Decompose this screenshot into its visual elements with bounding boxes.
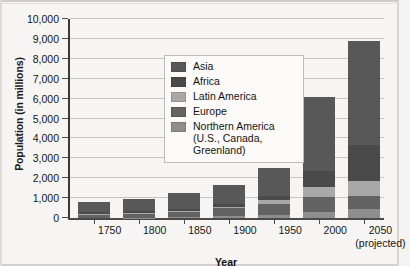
bar-1800 [123, 199, 155, 218]
y-axis-tick-label: 1,000 [33, 192, 59, 204]
figure-border-top [0, 0, 399, 2]
y-axis-tick [62, 217, 68, 218]
figure-border-top-secondary [0, 3, 399, 4]
gridline [70, 38, 384, 39]
legend-label-line: Africa [193, 75, 220, 87]
plot-area: 01,0002,0003,0004,0005,0006,0007,0008,00… [68, 19, 384, 220]
x-axis-tick-label-year: 1900 [233, 224, 256, 236]
bar-segment-africa [303, 171, 335, 187]
y-axis-tick-label: 10,000 [27, 13, 59, 25]
x-axis-tick-label: 2050(projected) [348, 224, 410, 249]
x-axis-line [68, 218, 384, 220]
bar-segment-asia [168, 193, 200, 209]
bar-segment-asia [303, 97, 335, 171]
bar-segment-asia [348, 41, 380, 145]
legend-swatch [171, 77, 186, 87]
y-axis-tick [62, 78, 68, 79]
legend-label-line: Europe [193, 105, 227, 117]
bar-segment-asia [123, 199, 155, 212]
legend-label: Asia [193, 61, 213, 73]
bar-segment-europe [348, 196, 380, 209]
gridline [70, 18, 384, 19]
bar-segment-europe [258, 204, 290, 215]
bar-segment-northern-america [213, 216, 245, 218]
y-axis-tick [62, 38, 68, 39]
bar-segment-asia [258, 168, 290, 196]
x-axis-tick-label-year: 1850 [188, 224, 211, 236]
gridline [70, 177, 384, 178]
bar-segment-northern-america [348, 209, 380, 218]
x-axis-title: Year [68, 256, 384, 266]
legend-label: Africa [193, 76, 220, 88]
legend-item-latin-america: Latin America [171, 91, 297, 103]
bar-segment-latin-america [303, 187, 335, 197]
y-axis-tick-label: 8,000 [33, 53, 59, 65]
bar-2050 [348, 41, 380, 218]
legend-swatch [171, 62, 186, 72]
legend-label-line: Northern America [193, 120, 275, 132]
bar-2000 [303, 97, 335, 218]
legend-swatch [171, 122, 186, 132]
chart-legend: AsiaAfricaLatin AmericaEuropeNorthern Am… [164, 55, 304, 163]
y-axis-tick-label: 0 [53, 212, 59, 224]
y-axis-tick-label: 4,000 [33, 132, 59, 144]
legend-item-asia: Asia [171, 61, 297, 73]
y-axis-tick-label: 9,000 [33, 33, 59, 45]
y-axis-tick-label: 2,000 [33, 172, 59, 184]
x-axis-tick-label-note: (projected) [348, 237, 410, 249]
legend-label-line: (U.S., Canada, [193, 133, 275, 145]
legend-swatch [171, 107, 186, 117]
figure-border-left [0, 0, 2, 266]
y-axis-tick [62, 137, 68, 138]
legend-label: Latin America [193, 91, 257, 103]
y-axis-tick [62, 58, 68, 59]
y-axis-tick-label: 6,000 [33, 93, 59, 105]
x-axis-tick-label-year: 2050 [369, 224, 392, 236]
y-axis-tick [62, 18, 68, 19]
bar-segment-latin-america [348, 181, 380, 197]
x-axis-tick-label-year: 2000 [324, 224, 347, 236]
y-axis-title: Population (in millions) [13, 19, 25, 209]
bar-segment-northern-america [168, 217, 200, 218]
y-axis-tick [62, 98, 68, 99]
legend-item-europe: Europe [171, 106, 297, 118]
bar-1900 [213, 185, 245, 218]
y-axis-tick [62, 157, 68, 158]
legend-label: Northern America(U.S., Canada,Greenland) [193, 121, 275, 156]
x-axis-tick-label-year: 1800 [143, 224, 166, 236]
y-axis-line [68, 19, 70, 220]
bar-segment-northern-america [303, 212, 335, 218]
legend-label-line: Greenland) [193, 145, 275, 157]
y-axis-tick-label: 5,000 [33, 113, 59, 125]
y-axis-tick-label: 3,000 [33, 152, 59, 164]
bar-1850 [168, 193, 200, 218]
x-axis-tick-label-year: 1950 [278, 224, 301, 236]
bar-1950 [258, 168, 290, 218]
legend-label-line: Asia [193, 60, 213, 72]
y-axis-tick [62, 197, 68, 198]
y-axis-tick [62, 118, 68, 119]
bar-segment-europe [213, 208, 245, 216]
y-axis-tick-label: 7,000 [33, 73, 59, 85]
bar-segment-northern-america [258, 215, 290, 218]
bar-segment-africa [348, 145, 380, 181]
bar-1750 [78, 202, 110, 218]
legend-label-line: Latin America [193, 90, 257, 102]
bar-segment-asia [78, 202, 110, 212]
x-axis-tick-label-year: 1750 [98, 224, 121, 236]
bar-segment-europe [303, 197, 335, 212]
y-axis-tick [62, 177, 68, 178]
bar-segment-asia [213, 185, 245, 204]
legend-label: Europe [193, 106, 227, 118]
legend-swatch [171, 92, 186, 102]
legend-item-africa: Africa [171, 76, 297, 88]
legend-item-northern-america: Northern America(U.S., Canada,Greenland) [171, 121, 297, 156]
